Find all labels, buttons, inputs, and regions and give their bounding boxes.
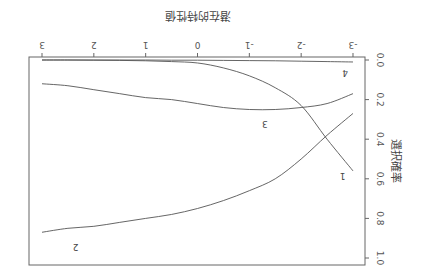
y-tick-label: 0.0 [375, 53, 385, 68]
x-tick-label: 2 [91, 40, 97, 50]
x-tick-label: 0 [194, 40, 200, 50]
y-tick-label: 0.8 [375, 211, 385, 226]
y-tick-label: 0.6 [375, 172, 385, 187]
curve-label-4: 4 [342, 68, 348, 78]
x-tick-label: -3 [348, 40, 357, 50]
curve-2 [42, 113, 353, 232]
plot-frame [29, 57, 365, 265]
curve-label-2: 2 [73, 242, 79, 252]
x-tick-label: -2 [297, 40, 306, 50]
x-tick-label: 1 [143, 40, 149, 50]
y-tick-label: 1.0 [375, 251, 385, 266]
curves: 1234 [42, 60, 353, 252]
y-tick-label: 0.2 [375, 92, 385, 106]
item-characteristic-chart: -3-2-10123 0.00.20.40.60.81.0 潜在的特性値 選択確… [0, 0, 430, 274]
curve-label-3: 3 [262, 119, 268, 129]
curve-3 [42, 84, 353, 110]
x-axis: -3-2-10123 [39, 40, 357, 57]
x-axis-label: 潜在的特性値 [165, 9, 231, 23]
x-tick-label: 3 [39, 40, 45, 50]
y-axis: 0.00.20.40.60.81.0 [365, 53, 385, 266]
curve-4 [42, 60, 353, 62]
x-tick-label: -1 [245, 40, 254, 50]
y-tick-label: 0.4 [375, 132, 385, 147]
curve-label-1: 1 [340, 171, 346, 181]
y-axis-label: 選択確率 [389, 139, 403, 183]
